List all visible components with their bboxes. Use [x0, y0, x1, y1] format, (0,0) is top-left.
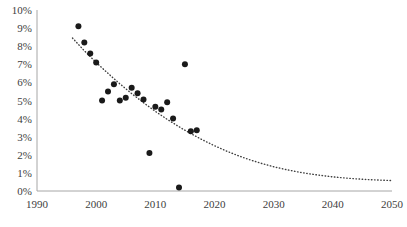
data-point	[141, 97, 147, 103]
y-tick-label: 1%	[17, 167, 32, 179]
y-tick-label: 2%	[17, 149, 32, 161]
x-tick-label: 2000	[85, 198, 108, 210]
y-tick-label: 4%	[17, 113, 32, 125]
x-tick-label: 2020	[204, 198, 227, 210]
data-point	[135, 90, 141, 96]
trendline-path	[73, 38, 393, 180]
y-tick-label: 8%	[17, 40, 32, 52]
y-tick-label: 10%	[12, 4, 32, 16]
data-point	[123, 95, 129, 101]
y-tick-label: 6%	[17, 76, 32, 88]
x-axis-tick-labels: 1990200020102020203020402050	[26, 198, 404, 210]
data-point	[117, 98, 123, 104]
data-point	[194, 127, 200, 133]
x-tick-label: 1990	[26, 198, 49, 210]
x-tick-label: 2030	[263, 198, 286, 210]
data-point	[152, 104, 158, 110]
trendline	[73, 38, 393, 180]
data-point	[111, 81, 117, 87]
data-point	[81, 40, 87, 46]
plot-area: 0%1%2%3%4%5%6%7%8%9%10% 1990200020102020…	[0, 0, 407, 227]
y-tick-label: 3%	[17, 131, 32, 143]
data-point	[146, 150, 152, 156]
x-tick-label: 2050	[381, 198, 404, 210]
y-tick-label: 9%	[17, 22, 32, 34]
data-point	[87, 50, 93, 56]
y-tick-label: 0%	[17, 185, 32, 197]
y-axis-tick-labels: 0%1%2%3%4%5%6%7%8%9%10%	[12, 4, 32, 197]
x-tick-label: 2010	[144, 198, 167, 210]
data-point	[75, 23, 81, 29]
data-points	[75, 23, 199, 190]
data-point	[105, 88, 111, 94]
data-point	[99, 98, 105, 104]
data-point	[93, 59, 99, 65]
scatter-chart: 0%1%2%3%4%5%6%7%8%9%10% 1990200020102020…	[0, 0, 407, 227]
y-tick-label: 7%	[17, 58, 32, 70]
data-point	[170, 116, 176, 122]
x-tick-label: 2040	[322, 198, 345, 210]
data-point	[164, 99, 170, 105]
data-point	[158, 107, 164, 113]
data-point	[176, 184, 182, 190]
data-point	[188, 128, 194, 134]
data-point	[129, 85, 135, 91]
data-point	[182, 61, 188, 67]
y-tick-label: 5%	[17, 95, 32, 107]
